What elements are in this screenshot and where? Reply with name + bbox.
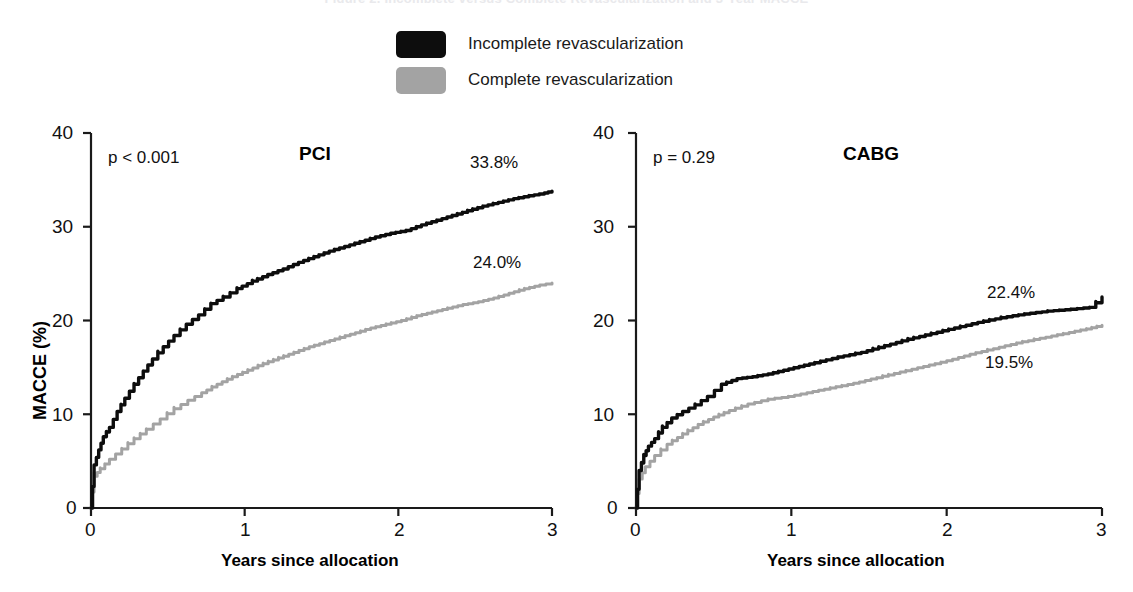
plot-area-cabg xyxy=(553,0,1133,592)
end-label-complete-pci: 24.0% xyxy=(473,253,521,273)
y-tick-20-cabg: 20 xyxy=(593,310,614,332)
y-tick-40-cabg: 40 xyxy=(593,122,614,144)
panel-cabg: 40 30 20 10 0 0 1 2 3 Years since alloca… xyxy=(553,0,1119,592)
figure-container: Figure 2. Incomplete versus Complete Rev… xyxy=(0,0,1133,592)
plot-area-pci xyxy=(0,0,566,592)
x-tick-2-cabg: 2 xyxy=(942,519,953,541)
end-label-incomplete-pci: 33.8% xyxy=(470,153,518,173)
y-tick-40-pci: 40 xyxy=(52,122,73,144)
x-tick-0-pci: 0 xyxy=(85,519,96,541)
end-label-incomplete-cabg: 22.4% xyxy=(987,283,1035,303)
y-tick-10-cabg: 10 xyxy=(593,404,614,426)
end-label-complete-cabg: 19.5% xyxy=(985,353,1033,373)
x-tick-3-cabg: 3 xyxy=(1096,519,1107,541)
p-value-cabg: p = 0.29 xyxy=(653,148,715,168)
panel-title-cabg: CABG xyxy=(843,143,899,165)
x-axis-title-pci: Years since allocation xyxy=(221,551,399,571)
y-tick-10-pci: 10 xyxy=(52,404,73,426)
panel-title-pci: PCI xyxy=(299,143,331,165)
panel-pci: MACCE (%) 40 30 20 10 0 0 1 2 3 Years si… xyxy=(0,0,566,592)
x-tick-1-pci: 1 xyxy=(240,519,251,541)
x-tick-1-cabg: 1 xyxy=(786,519,797,541)
y-tick-0-cabg: 0 xyxy=(607,497,618,519)
x-tick-2-pci: 2 xyxy=(394,519,405,541)
p-value-pci: p < 0.001 xyxy=(108,148,179,168)
y-axis-title-pci: MACCE (%) xyxy=(30,321,51,420)
y-tick-20-pci: 20 xyxy=(52,310,73,332)
x-tick-0-cabg: 0 xyxy=(630,519,641,541)
x-axis-title-cabg: Years since allocation xyxy=(767,551,945,571)
y-tick-30-cabg: 30 xyxy=(593,216,614,238)
y-tick-30-pci: 30 xyxy=(52,216,73,238)
y-tick-0-pci: 0 xyxy=(66,497,77,519)
